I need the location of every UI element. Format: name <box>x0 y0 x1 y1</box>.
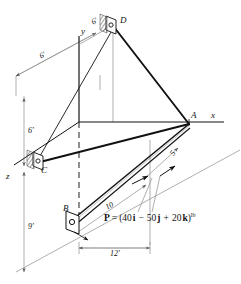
force-equation: P=(40i−50j+20k)lb <box>104 212 196 224</box>
support-pin-B <box>69 219 74 224</box>
support-B <box>66 211 88 240</box>
force-symbol-P: P <box>104 213 110 223</box>
dimension-lines <box>16 25 240 272</box>
force-j-coefficient: 50 <box>147 213 157 223</box>
member-D-A <box>114 27 189 124</box>
force-units: lb <box>191 212 196 218</box>
support-pin-D <box>109 23 113 27</box>
force-arrow-main <box>132 176 148 184</box>
force-j-unit: j <box>157 213 160 223</box>
dimension-label-9-vertical: 9' <box>28 223 34 231</box>
axis-label-x: x <box>211 111 215 120</box>
dim-line-6-upper-left-b <box>16 33 96 76</box>
support-hatch-D <box>100 14 107 33</box>
bar-centerline <box>72 126 189 223</box>
support-arrow-B <box>74 232 88 240</box>
force-equals: = <box>112 213 117 223</box>
ground-diagonal-line <box>16 150 240 272</box>
dimension-label-6-vertical: 6' <box>28 127 34 135</box>
support-D <box>100 14 116 34</box>
member-C-D <box>36 27 114 163</box>
force-k-coefficient: 20 <box>172 213 182 223</box>
force-arrow-secondary <box>160 166 175 176</box>
force-minus: − <box>138 213 143 223</box>
point-label-B: B <box>63 204 69 213</box>
statics-frame-diagram <box>0 0 241 284</box>
axis-label-z: z <box>6 172 10 181</box>
axis-label-y: y <box>81 27 85 36</box>
point-label-A: A <box>191 111 197 120</box>
force-i-unit: i <box>133 213 136 223</box>
force-arrows <box>132 166 175 184</box>
point-label-D: D <box>120 16 127 25</box>
point-label-C: C <box>41 166 47 175</box>
support-pin-C <box>36 159 40 163</box>
dimension-label-12-horizontal: 12' <box>110 250 120 258</box>
force-i-coefficient: 40 <box>122 213 132 223</box>
force-plus: + <box>164 213 169 223</box>
support-hatch-C <box>27 150 34 169</box>
